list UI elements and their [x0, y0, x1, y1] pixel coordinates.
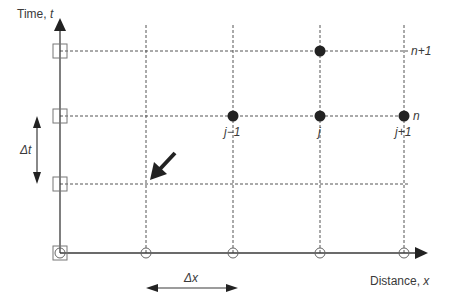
delta-x-arrow-icon: [146, 284, 238, 292]
node-label-j-plus-1: j+1: [395, 126, 411, 138]
space-node-lines: [146, 25, 404, 253]
delta-t-arrow-icon: [33, 116, 41, 184]
filled-point-j-n: [315, 111, 326, 122]
distance-axis-arrowhead-icon: [415, 247, 428, 259]
delta-x-label: Δx: [184, 272, 198, 284]
time-axis-arrowhead-icon: [54, 18, 66, 31]
pointer-arrow-icon: [150, 153, 175, 180]
filled-point-j-minus-1-n: [228, 111, 239, 122]
delta-t-label: Δt: [20, 144, 31, 156]
time-axis: [54, 18, 66, 253]
level-label-n-plus-1: n+1: [411, 45, 431, 57]
finite-difference-grid-diagram: Time, t Distance, x n+1 n j−1 j j+1 Δt Δ…: [0, 0, 455, 307]
node-label-j-minus-1: j−1: [224, 126, 240, 138]
distance-axis-label: Distance, x: [370, 275, 429, 287]
filled-point-j-n-plus-1: [315, 46, 326, 57]
time-variable: t: [50, 7, 53, 21]
distance-axis: [60, 247, 428, 259]
level-label-n: n: [413, 110, 420, 122]
stencil-points: [228, 46, 410, 122]
grid-svg: [0, 0, 455, 307]
time-axis-label: Time, t: [17, 8, 53, 20]
distance-variable: x: [423, 274, 429, 288]
filled-point-j-plus-1-n: [399, 111, 410, 122]
node-label-j: j: [318, 126, 321, 138]
